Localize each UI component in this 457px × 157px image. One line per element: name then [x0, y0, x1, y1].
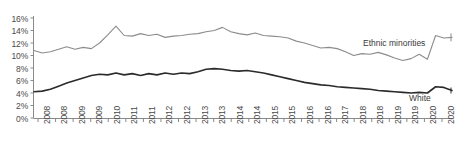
xtick-label: 2010 [112, 106, 122, 124]
xtick-label: 2011 [129, 107, 139, 124]
xtick-label: 2018 [358, 106, 368, 124]
xtick-label: 2020 [428, 106, 438, 124]
series-line-white [34, 69, 452, 93]
xtick-label: 2009 [94, 106, 104, 124]
xtick-label: 2018 [375, 106, 385, 124]
xtick-label: 2015 [287, 106, 297, 124]
xtick-label: 2013 [217, 106, 227, 124]
xtick-label: 2014 [252, 106, 262, 124]
xtick-label: 2020 [446, 106, 456, 124]
xtick-label: 2014 [235, 106, 245, 124]
series-line-ethnic-minorities [34, 26, 452, 60]
xtick-label: 2013 [200, 106, 210, 124]
unemployment-rate-line-chart: 16% 14% 12% 10% 8% 6% 4% 2% 0% Ethnic mi… [0, 0, 457, 157]
xtick-label: 2011 [147, 107, 157, 124]
xtick-label: 2008 [59, 106, 69, 124]
xtick-label: 2012 [182, 106, 192, 124]
xtick-label: 2008 [42, 106, 52, 124]
xtick-label: 2016 [323, 106, 333, 124]
xtick-label: 2012 [164, 106, 174, 124]
xtick-label: 2017 [340, 106, 350, 124]
xtick-label: 2009 [77, 106, 87, 124]
xtick-label: 2019 [393, 106, 403, 124]
plot-area [0, 0, 457, 157]
xtick-label: 2019 [410, 106, 420, 124]
xtick-label: 2016 [305, 106, 315, 124]
xtick-label: 2015 [270, 106, 280, 124]
